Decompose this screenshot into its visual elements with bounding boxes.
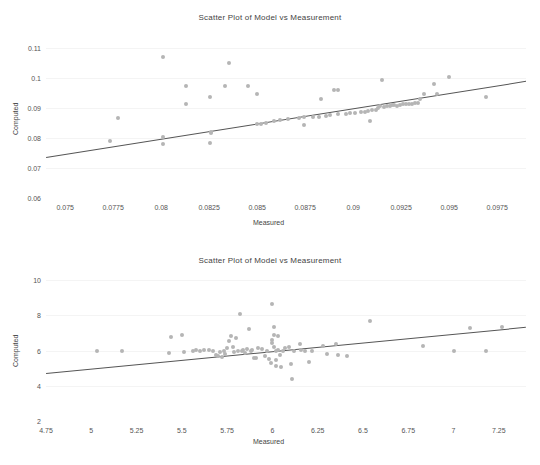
data-point	[336, 88, 340, 92]
x-tick-label: 5	[89, 427, 93, 434]
data-point	[208, 141, 212, 145]
x-tick-label: 6.5	[358, 427, 368, 434]
y-tick-label: 10	[33, 277, 41, 284]
data-point	[108, 139, 112, 143]
y-tick-label: 0.07	[27, 164, 41, 171]
grid-line	[46, 315, 526, 316]
x-tick-label: 0.075	[56, 204, 74, 211]
data-point	[255, 92, 259, 96]
data-point	[231, 345, 235, 349]
y-tick-label: 0.06	[27, 195, 41, 202]
data-point	[311, 115, 315, 119]
data-point	[247, 327, 251, 331]
x-tick-label: 0.085	[248, 204, 266, 211]
x-axis-title-bottom: Measured	[253, 438, 284, 445]
data-point	[345, 354, 349, 358]
data-point	[184, 84, 188, 88]
data-point	[297, 116, 301, 120]
data-point	[452, 349, 456, 353]
data-point	[246, 84, 250, 88]
x-tick-label: 5.25	[130, 427, 144, 434]
scatter-chart-top: Scatter Plot of Model vs Measurement Com…	[0, 0, 540, 232]
data-point	[120, 349, 124, 353]
data-point	[279, 365, 283, 369]
grid-line	[46, 108, 526, 109]
x-tick-label: 5.75	[220, 427, 234, 434]
chart-title-top: Scatter Plot of Model vs Measurement	[0, 13, 540, 22]
data-point	[270, 302, 274, 306]
grid-line	[46, 138, 526, 139]
data-point	[317, 115, 321, 119]
data-point	[227, 339, 231, 343]
y-tick-label: 2	[37, 418, 41, 425]
data-point	[348, 111, 352, 115]
grid-line	[46, 78, 526, 79]
scatter-chart-bottom: Scatter Plot of Model vs Measurement Com…	[0, 232, 540, 465]
data-point	[289, 362, 293, 366]
data-point	[254, 356, 258, 360]
data-point	[421, 344, 425, 348]
data-point	[435, 92, 439, 96]
data-point	[272, 325, 276, 329]
data-point	[223, 84, 227, 88]
data-point	[264, 121, 268, 125]
y-tick-label: 4	[37, 382, 41, 389]
x-tick-label: 7.25	[492, 427, 506, 434]
data-point	[447, 75, 451, 79]
data-point	[484, 349, 488, 353]
data-point	[243, 351, 247, 355]
x-tick-label: 0.095	[440, 204, 458, 211]
data-point	[167, 351, 171, 355]
y-axis-title-bottom: Computed	[12, 335, 19, 367]
chart-title-bottom: Scatter Plot of Model vs Measurement	[0, 256, 540, 265]
data-point	[336, 112, 340, 116]
x-tick-label: 0.09	[346, 204, 360, 211]
data-point	[366, 109, 370, 113]
x-tick-label: 0.0775	[102, 204, 123, 211]
data-point	[328, 113, 332, 117]
data-point	[234, 336, 238, 340]
x-tick-label: 0.08	[154, 204, 168, 211]
data-point	[368, 119, 372, 123]
data-point	[260, 347, 264, 351]
y-tick-label: 6	[37, 347, 41, 354]
x-tick-label: 4.75	[39, 427, 53, 434]
data-point	[161, 55, 165, 59]
data-point	[182, 350, 186, 354]
grid-line	[46, 48, 526, 49]
data-point	[292, 349, 296, 353]
grid-line	[46, 280, 526, 281]
data-point	[416, 101, 420, 105]
data-point	[208, 95, 212, 99]
x-tick-label: 5.5	[177, 427, 187, 434]
data-point	[298, 342, 302, 346]
data-point	[334, 342, 338, 346]
data-point	[344, 112, 348, 116]
data-point	[276, 348, 280, 352]
data-point	[468, 326, 472, 330]
data-point	[303, 349, 307, 353]
y-tick-label: 0.08	[27, 134, 41, 141]
data-point	[368, 319, 372, 323]
x-tick-label: 6.75	[401, 427, 415, 434]
data-point	[269, 361, 273, 365]
data-point	[290, 377, 294, 381]
x-tick-label: 6.25	[311, 427, 325, 434]
data-point	[276, 334, 280, 338]
x-tick-label: 7	[452, 427, 456, 434]
data-point	[319, 97, 323, 101]
data-point	[220, 355, 224, 359]
x-tick-label: 0.0825	[198, 204, 219, 211]
data-point	[169, 335, 173, 339]
data-point	[302, 115, 306, 119]
data-point	[184, 102, 188, 106]
data-point	[380, 78, 384, 82]
y-axis-title-top: Computed	[12, 103, 19, 135]
data-point	[310, 349, 314, 353]
data-point	[484, 95, 488, 99]
y-tick-label: 0.11	[28, 44, 41, 51]
grid-line	[46, 386, 526, 387]
data-point	[250, 348, 254, 352]
x-tick-label: 0.0925	[390, 204, 411, 211]
data-point	[259, 122, 263, 126]
